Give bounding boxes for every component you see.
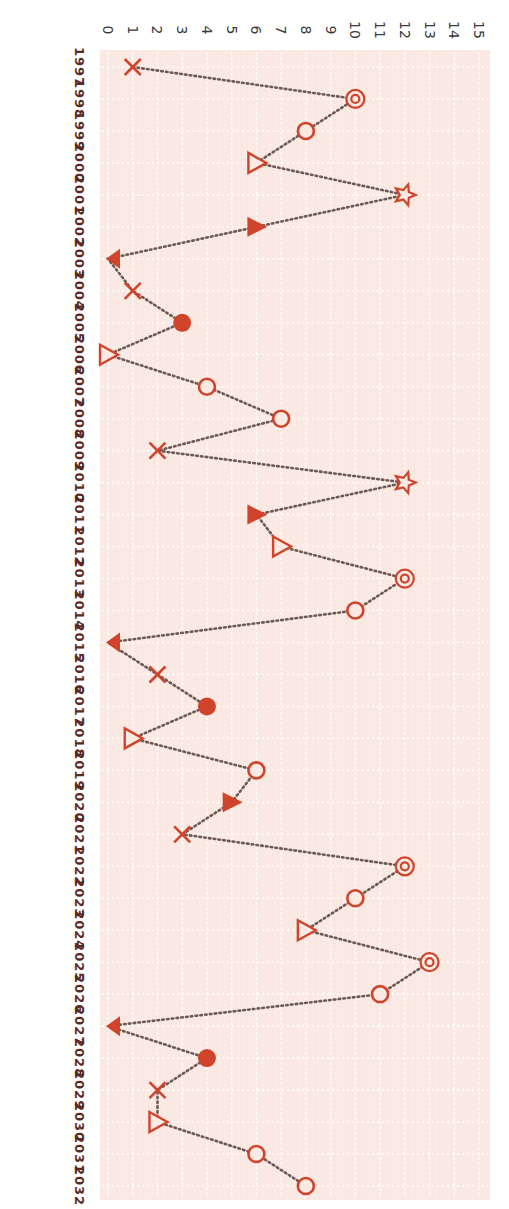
value-tick-label: 1 [125, 26, 141, 35]
value-tick-label: 9 [323, 26, 339, 35]
data-point-circle [347, 890, 363, 906]
value-tick-label: 5 [224, 26, 240, 35]
value-tick-label: 11 [372, 21, 388, 39]
data-point-double-circle [421, 953, 439, 971]
line-chart: 0123456789101112131415 19971998199920002… [0, 0, 509, 1209]
data-point-circle [199, 379, 215, 395]
data-point-dot [173, 314, 191, 332]
value-tick-label: 15 [471, 21, 487, 39]
data-point-circle [298, 123, 314, 139]
data-point-double-circle [396, 857, 414, 875]
value-tick-label: 0 [100, 26, 116, 35]
value-tick-label: 13 [422, 21, 438, 39]
value-tick-label: 14 [446, 21, 462, 39]
value-tick-label: 10 [347, 21, 363, 39]
data-point-dot [198, 697, 216, 715]
data-point-circle [347, 603, 363, 619]
value-tick-label: 8 [298, 26, 314, 35]
data-point-double-circle [396, 570, 414, 588]
value-tick-label: 6 [248, 26, 264, 35]
data-point-circle [273, 411, 289, 427]
data-point-circle [372, 986, 388, 1002]
value-tick-label: 7 [273, 26, 289, 35]
year-tick-label: 2032 [72, 1166, 87, 1206]
value-tick-label: 3 [174, 26, 190, 35]
value-tick-label: 4 [199, 26, 215, 35]
data-point-dot [198, 1049, 216, 1067]
value-axis: 0123456789101112131415 [100, 21, 487, 39]
data-point-circle [298, 1178, 314, 1194]
value-tick-label: 2 [149, 26, 165, 35]
data-point-circle [248, 1146, 264, 1162]
value-tick-label: 12 [397, 21, 413, 39]
data-point-circle [248, 762, 264, 778]
data-point-double-circle [346, 90, 364, 108]
plot-area [100, 50, 490, 1200]
year-axis: 1997199819992000200120022003200420052006… [72, 47, 87, 1206]
